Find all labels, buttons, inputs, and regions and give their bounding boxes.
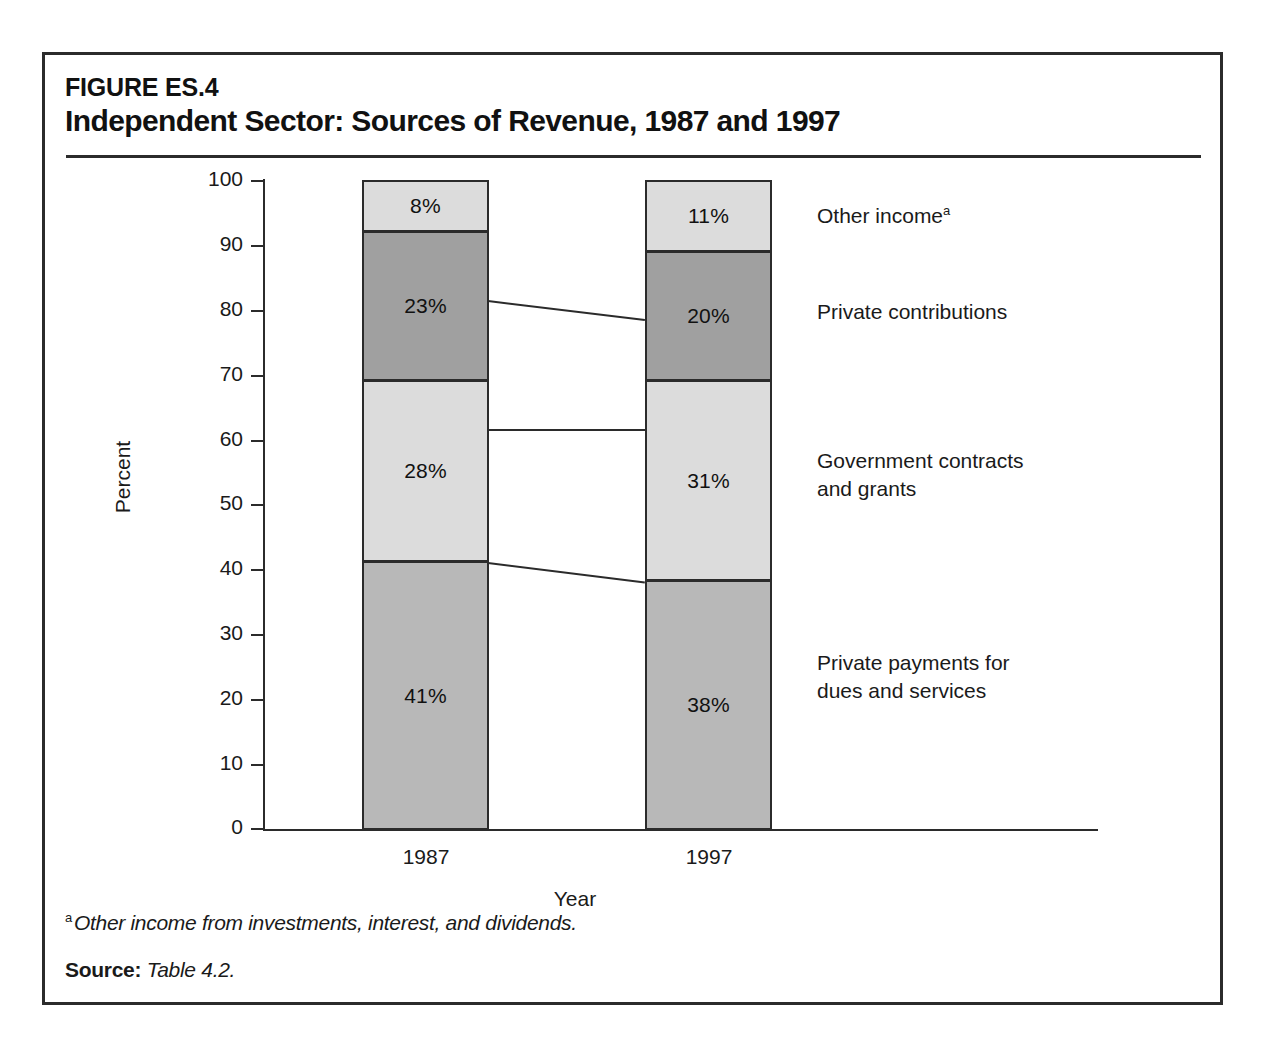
legend-label: Private contributions [817,300,1007,323]
y-tick-70 [251,375,264,377]
y-tick-label-30: 30 [185,621,243,645]
figure-frame: FIGURE ES.4 Independent Sector: Sources … [42,52,1223,1005]
segment-1997-private-contributions[interactable]: 20% [645,251,772,381]
legend-item-government: Government contracts and grants [817,447,1117,503]
y-tick-100 [251,180,264,182]
segment-label: 11% [688,204,729,228]
segment-label: 28% [404,459,447,483]
connector-private-payments [488,562,645,584]
source-value: Table 4.2. [147,958,235,981]
segment-label: 31% [687,469,730,493]
legend-label-line1: Private payments for [817,649,1117,677]
legend-item-private-payments: Private payments for dues and services [817,649,1117,705]
segment-1997-government[interactable]: 31% [645,380,772,581]
x-tick-label-1997: 1997 [609,845,809,869]
segment-1987-private-contributions[interactable]: 23% [362,231,489,381]
x-tick-label-1987: 1987 [326,845,526,869]
y-tick-60 [251,440,264,442]
footnote-marker: a [65,910,74,925]
legend-item-other-income: Other incomea [817,202,1117,230]
y-tick-label-20: 20 [185,686,243,710]
y-tick-label-90: 90 [185,232,243,256]
legend-item-private-contributions: Private contributions [817,298,1117,326]
y-tick-label-80: 80 [185,297,243,321]
y-tick-label-40: 40 [185,556,243,580]
segment-label: 8% [410,194,441,218]
segment-label: 23% [404,294,447,318]
footnote: aOther income from investments, interest… [65,911,577,935]
y-tick-80 [251,310,264,312]
connector-other-income [488,300,645,321]
y-tick-label-60: 60 [185,427,243,451]
y-tick-90 [251,245,264,247]
y-tick-label-0: 0 [185,815,243,839]
connector-government [488,429,646,431]
segment-label: 41% [404,684,447,708]
x-axis-title: Year [425,887,725,911]
chart-plot-area: 100 90 80 70 60 50 40 30 20 10 0 Percent [45,55,1220,1002]
segment-1997-private-payments[interactable]: 38% [645,580,772,830]
y-tick-50 [251,504,264,506]
segment-label: 20% [687,304,730,328]
legend-label: Other income [817,204,943,227]
legend-label-line1: Government contracts [817,447,1117,475]
legend-label-line2: dues and services [817,677,1117,705]
y-tick-label-100: 100 [185,167,243,191]
y-tick-30 [251,634,264,636]
segment-1987-private-payments[interactable]: 41% [362,561,489,830]
y-tick-20 [251,699,264,701]
y-tick-40 [251,569,264,571]
source-label: Source: [65,958,141,981]
legend-footnote-marker: a [943,203,950,218]
y-tick-10 [251,764,264,766]
legend-label-line2: and grants [817,475,1117,503]
y-tick-label-50: 50 [185,491,243,515]
y-axis-title: Percent [111,387,135,567]
footnote-text: Other income from investments, interest,… [74,911,577,934]
y-tick-label-10: 10 [185,751,243,775]
segment-1997-other-income[interactable]: 11% [645,180,772,252]
segment-1987-other-income[interactable]: 8% [362,180,489,232]
segment-1987-government[interactable]: 28% [362,380,489,562]
source-line: Source: Table 4.2. [65,958,235,982]
y-tick-0 [251,828,264,830]
segment-label: 38% [687,693,730,717]
y-tick-label-70: 70 [185,362,243,386]
